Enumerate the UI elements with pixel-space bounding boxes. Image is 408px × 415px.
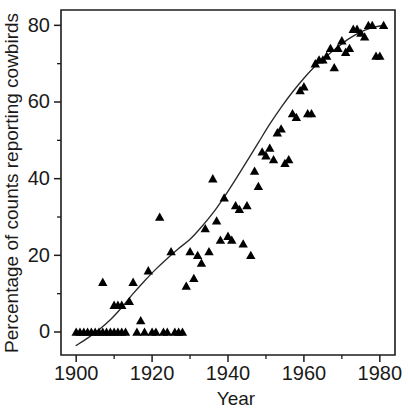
data-point-marker [185, 247, 194, 255]
data-point-marker [379, 21, 388, 29]
scatter-plot: 02040608019001920194019601980 Year Perce… [0, 0, 408, 415]
y-tick-label: 60 [28, 90, 50, 112]
data-point-marker [238, 239, 247, 247]
data-point-marker [166, 247, 175, 255]
data-point-marker [284, 155, 293, 163]
data-point-marker [212, 216, 221, 224]
data-point-marker [155, 212, 164, 220]
data-point-marker [128, 278, 137, 286]
y-axis-label: Percentage of counts reporting cowbirds [1, 13, 22, 353]
x-axis-label: Year [217, 388, 256, 409]
data-point-marker [220, 193, 229, 201]
data-point-marker [144, 266, 153, 274]
data-point-marker [242, 201, 251, 209]
data-point-marker [246, 251, 255, 259]
data-point-marker [299, 82, 308, 90]
plot-frame [61, 10, 395, 355]
data-point-marker [345, 44, 354, 52]
data-point-marker [250, 166, 259, 174]
data-point-marker [330, 63, 339, 71]
data-point-marker [337, 36, 346, 44]
data-point-marker [197, 258, 206, 266]
y-tick-label: 40 [28, 167, 50, 189]
data-point-marker [189, 274, 198, 282]
fitted-trend-line [76, 25, 383, 345]
data-point-marker [136, 316, 145, 324]
data-point-marker [254, 182, 263, 190]
x-tick-label: 1900 [54, 362, 99, 384]
data-point-marker [125, 297, 134, 305]
data-point-marker [182, 281, 191, 289]
x-tick-label: 1920 [130, 362, 175, 384]
data-markers [71, 21, 388, 336]
data-point-marker [132, 327, 141, 335]
data-point-marker [98, 278, 107, 286]
fit-curve [76, 25, 383, 345]
x-tick-label: 1960 [282, 362, 327, 384]
plot-border [61, 10, 395, 355]
x-tick-label: 1980 [358, 362, 403, 384]
axis-ticks [54, 25, 380, 362]
data-point-marker [326, 44, 335, 52]
data-point-marker [204, 247, 213, 255]
y-tick-label: 80 [28, 14, 50, 36]
data-point-marker [201, 224, 210, 232]
data-point-marker [276, 124, 285, 132]
data-point-marker [265, 143, 274, 151]
y-tick-label: 20 [28, 244, 50, 266]
y-tick-label: 0 [39, 320, 50, 342]
figure-container: 02040608019001920194019601980 Year Perce… [0, 0, 408, 415]
data-point-marker [140, 327, 149, 335]
x-tick-label: 1940 [206, 362, 251, 384]
data-point-marker [208, 174, 217, 182]
